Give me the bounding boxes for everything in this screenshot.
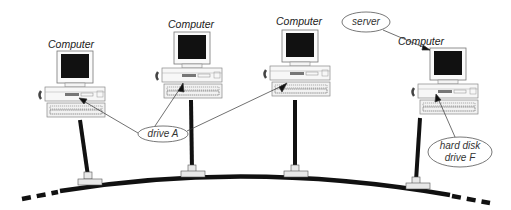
computer-3-label: Computer bbox=[276, 15, 322, 27]
computer-4-server bbox=[413, 48, 479, 114]
hard-disk-callout-text-line2: drive F bbox=[428, 152, 492, 163]
drop-cables bbox=[80, 100, 420, 181]
drive-a-callout-text: drive A bbox=[138, 128, 188, 139]
hard-disk-callout-text-line1: hard disk bbox=[428, 140, 492, 151]
computer-2-label: Computer bbox=[168, 18, 214, 30]
server-callout-text: server bbox=[342, 16, 390, 27]
computer-4-label: Computer bbox=[398, 35, 444, 47]
computer-1 bbox=[40, 51, 106, 117]
computer-1-label: Computer bbox=[48, 38, 94, 50]
network-diagram bbox=[0, 0, 511, 210]
computer-2 bbox=[157, 32, 223, 98]
computer-3 bbox=[265, 30, 331, 96]
